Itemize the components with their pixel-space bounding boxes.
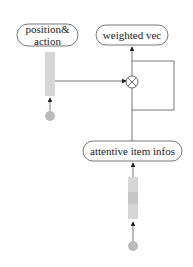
position-label-line1: position& bbox=[17, 23, 78, 35]
position-label-line2: action bbox=[17, 35, 78, 47]
position-input-dot bbox=[45, 111, 55, 121]
attentive-item-infos-label: attentive item infos bbox=[83, 145, 182, 157]
weighted-vec-label: weighted vec bbox=[96, 29, 168, 41]
item-input-dot bbox=[128, 241, 138, 251]
residual-connection bbox=[132, 61, 174, 110]
position-action-label: position& action bbox=[17, 23, 78, 47]
multiply-operator-icon bbox=[126, 76, 138, 88]
position-embedding-bar bbox=[45, 52, 55, 96]
